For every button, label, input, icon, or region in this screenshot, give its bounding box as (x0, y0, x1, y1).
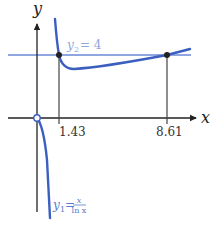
y1-label: y 1 = x ln x (52, 196, 87, 215)
y1-label-num: x (77, 196, 82, 205)
tick-label-2: 8.61 (156, 125, 183, 139)
intersection-point-1 (56, 52, 62, 58)
y2-label-main: y (66, 38, 74, 52)
y2-label-eq: = 4 (80, 38, 102, 52)
tick-label-1: 1.43 (59, 125, 86, 139)
x-axis-label: x (201, 108, 210, 127)
y1-label-main: y (52, 198, 60, 212)
chart-canvas: y x 1.43 8.61 y 2 = 4 y 1 = x ln x (0, 0, 219, 225)
y2-label: y 2 = 4 (66, 38, 102, 54)
y1-curve-right (55, 19, 190, 69)
intersection-point-2 (164, 52, 170, 58)
y2-label-sub: 2 (74, 45, 79, 54)
y1-curve-left (37, 118, 50, 218)
y-axis-label: y (32, 0, 43, 18)
y1-label-den: ln x (72, 206, 87, 215)
open-point-origin (34, 115, 40, 121)
